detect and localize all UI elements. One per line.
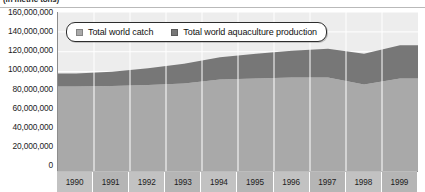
- y-axis-tick: 20,000,000: [13, 141, 53, 151]
- stacked-area-chart: 0 20,000,000 40,000,000 60,000,000 80,00…: [0, 9, 425, 192]
- legend-label: Total world aquaculture production: [183, 27, 317, 37]
- legend-item-total-world-aquaculture-production: Total world aquaculture production: [171, 27, 317, 37]
- x-axis-tick: 1991: [93, 172, 129, 192]
- legend-swatch-icon: [171, 29, 178, 36]
- x-axis-tick: 1999: [382, 172, 417, 192]
- y-axis-tick: 80,000,000: [13, 84, 53, 94]
- x-axis-tick: 1996: [274, 172, 310, 192]
- header-divider: [0, 7, 425, 8]
- y-axis-tick: 0: [48, 160, 53, 170]
- x-axis: 1990 1991 1992 1993 1994 1995 1996 1997 …: [57, 172, 417, 192]
- y-axis-tick: 140,000,000: [8, 26, 53, 36]
- y-axis-tick: 100,000,000: [8, 64, 53, 74]
- x-axis-tick: 1995: [237, 172, 273, 192]
- x-axis-tick: 1998: [346, 172, 382, 192]
- y-axis-tick: 60,000,000: [13, 103, 53, 113]
- y-axis: 0 20,000,000 40,000,000 60,000,000 80,00…: [0, 9, 56, 171]
- x-axis-tick: 1990: [57, 172, 93, 192]
- legend-item-total-world-catch: Total world catch: [76, 27, 153, 37]
- x-axis-tick: 1997: [310, 172, 346, 192]
- y-axis-tick: 40,000,000: [13, 122, 53, 132]
- y-axis-tick: 120,000,000: [8, 45, 53, 55]
- x-axis-tick: 1993: [165, 172, 201, 192]
- legend-label: Total world catch: [88, 27, 153, 37]
- legend-swatch-icon: [76, 29, 83, 36]
- x-axis-tick: 1992: [129, 172, 165, 192]
- units-caption: (in metric tons): [3, 0, 59, 4]
- x-axis-tick: 1994: [201, 172, 237, 192]
- chart-legend: Total world catch Total world aquacultur…: [66, 22, 327, 42]
- y-axis-tick: 160,000,000: [8, 7, 53, 17]
